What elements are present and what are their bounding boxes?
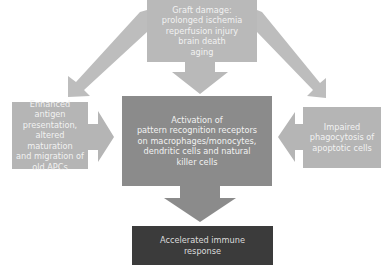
antigen-presentation-box: Enhanced antigen presentation, altered m… (12, 102, 88, 169)
center-line-5: killer cells (137, 157, 257, 167)
arrow-right-to-center (278, 112, 303, 162)
phagocytosis-box: Impaired phagocytosis of apoptotic cells (303, 107, 381, 168)
graft-damage-box: Graft damage: prolonged ischemia reperfu… (147, 0, 257, 62)
right-line-3: apoptotic cells (310, 143, 374, 153)
bottom-line-1: Accelerated immune (160, 235, 245, 245)
immune-response-box: Accelerated immune response (132, 226, 273, 265)
right-line-1: Impaired (310, 122, 374, 132)
top-line-1: Graft damage: (162, 5, 242, 15)
center-line-2: pattern recognition receptors (137, 125, 257, 135)
left-line-3: altered maturation (15, 130, 85, 151)
top-line-3: reperfusion injury (162, 26, 242, 36)
top-line-4: brain death (162, 36, 242, 46)
left-line-2: presentation, (15, 120, 85, 130)
bottom-line-2: response (160, 246, 245, 256)
top-line-2: prolonged ischemia (162, 15, 242, 25)
center-line-4: dendritic cells and natural (137, 146, 257, 156)
left-line-4: and migration of (15, 151, 85, 161)
arrow-left-to-center (88, 111, 114, 162)
arrow-top-to-left (68, 10, 147, 97)
right-line-2: phagocytosis of (310, 132, 374, 142)
arrow-center-to-bottom (164, 186, 236, 222)
arrow-top-to-center (172, 62, 228, 94)
top-line-5: aging (162, 47, 242, 57)
center-line-3: on macrophages/monocytes, (137, 136, 257, 146)
center-line-1: Activation of (137, 115, 257, 125)
left-line-5: old APCs (15, 162, 85, 172)
arrow-top-to-right (257, 10, 326, 98)
left-line-1: Enhanced antigen (15, 99, 85, 120)
pattern-recognition-box: Activation of pattern recognition recept… (122, 96, 272, 186)
